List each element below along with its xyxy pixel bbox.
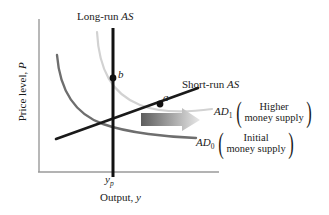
x-axis-label: Output, y [100,192,141,204]
ad1-bracket: ( Higher money supply ) [234,100,313,125]
ad0-bracket: ( Initial money supply ) [216,131,295,156]
ad1-label: AD1 [214,105,232,120]
ad1-bracket-line1: Higher [244,101,303,113]
point-b-label: b [118,69,124,81]
point-b-marker [110,75,117,82]
ad0-bracket-text: Initial money supply [226,132,285,156]
paren-close: ) [306,100,312,125]
y-axis-label: Price level, P [17,44,29,140]
paren-close: ) [288,131,294,156]
ad1-annotation-group: AD1 ( Higher money supply ) [214,100,314,125]
ad0-annotation-group: AD0 ( Initial money supply ) [196,131,296,156]
ad-as-diagram: Long-run AS Short-run AS b a Price level… [0,0,329,215]
x-axis-tick-label-yp: yp [105,174,114,188]
paren-open: ( [237,100,243,125]
ad0-label: AD0 [196,136,214,151]
point-a-label: a [163,92,169,104]
paren-open: ( [219,131,225,156]
ad1-bracket-text: Higher money supply [244,101,303,125]
ad0-bracket-line2: money supply [226,143,285,155]
lras-label: Long-run AS [77,11,134,23]
ad1-bracket-line2: money supply [244,112,303,124]
ad0-bracket-line1: Initial [226,132,285,144]
sras-label: Short-run AS [182,79,239,91]
